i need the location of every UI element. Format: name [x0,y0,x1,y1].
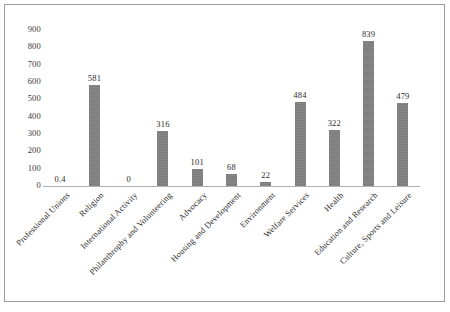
bar-value-label: 479 [396,91,409,101]
bar-value-label: 0.4 [55,174,66,184]
bar [89,85,100,186]
bar [260,182,271,186]
bar [226,174,237,186]
bar-value-label: 484 [293,90,306,100]
x-axis-category-label: Religion [75,190,105,220]
bar [329,130,340,186]
bar [363,41,374,186]
bar [295,102,306,186]
x-axis-category-label: Professional Unions [12,190,71,249]
bar [192,169,203,186]
bar-value-label: 101 [191,157,204,167]
x-axis-category-label: Education and Research [311,190,380,259]
x-axis-category-label: Culture, Sports and Leisure [336,190,413,267]
bar-value-label: 68 [227,162,236,172]
x-axis-category-label: Health [320,190,345,215]
bar-value-label: 0 [126,174,130,184]
bar-value-label: 22 [261,170,270,180]
figure: 9008007006005004003002001000 0.458103161… [0,0,450,312]
x-axis-line [43,186,420,187]
x-axis-category-label: International Activity [77,190,139,252]
bar-value-label: 316 [156,119,169,129]
bar-value-label: 839 [362,29,375,39]
bar [397,103,408,186]
x-axis-category-label: Housing and Development [167,190,242,265]
x-axis-category-label: Advocacy [175,190,209,224]
plot-area: 9008007006005004003002001000 0.458103161… [0,0,450,312]
bar-value-label: 322 [328,118,341,128]
bar [157,131,168,186]
bar-value-label: 581 [88,73,101,83]
